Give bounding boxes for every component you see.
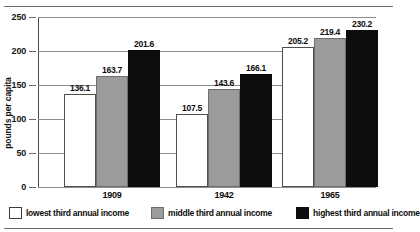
y-axis-tick [29,17,36,18]
legend-item[interactable]: lowest third annual income [9,207,129,219]
bar-value-label: 143.6 [214,78,234,88]
bar-value-label: 205.2 [288,36,308,46]
legend-label: lowest third annual income [26,208,129,218]
bar-value-label: 230.2 [352,19,372,29]
y-axis-tick-label: 50 [16,148,26,158]
legend-item[interactable]: highest third annual income [296,207,420,219]
x-axis-category-label: 1942 [214,190,233,200]
y-axis-tick-label: 200 [12,46,26,56]
y-axis-line [38,17,39,187]
bar[interactable]: 143.6 [208,89,240,187]
bar[interactable]: 230.2 [346,30,378,187]
y-axis-title: pounds per capita [2,58,14,168]
bottom-divider [4,228,393,229]
y-axis-tick-label: 0 [21,182,26,192]
legend-swatch [9,207,22,219]
bar[interactable]: 219.4 [314,38,346,187]
y-axis-tick [29,153,36,154]
bar-group: 205.2219.4230.2 [282,17,378,187]
bar[interactable]: 107.5 [176,114,208,187]
bar-value-label: 107.5 [182,103,202,113]
chart-legend: lowest third annual incomemiddle third a… [0,203,397,223]
bar[interactable]: 205.2 [282,47,314,187]
clipped-caption [14,0,394,2]
gridline [38,187,376,188]
legend-label: highest third annual income [313,208,420,218]
x-axis-category-label: 1965 [320,190,339,200]
bar[interactable]: 136.1 [64,94,96,187]
bar-value-label: 166.1 [246,63,266,73]
legend-swatch [296,207,309,219]
y-axis-tick-label: 150 [12,80,26,90]
bar[interactable]: 201.6 [128,50,160,187]
y-axis-tick [29,85,36,86]
bar[interactable]: 166.1 [240,74,272,187]
legend-label: middle third annual income [168,208,272,218]
bar-group: 136.1163.7201.6 [64,17,160,187]
bar-value-label: 136.1 [70,83,90,93]
y-axis-tick [29,119,36,120]
bar[interactable]: 163.7 [96,76,128,187]
y-axis-tick-label: 250 [12,12,26,22]
bar-chart: pounds per capita 050100150200250136.116… [0,6,397,196]
bar-value-label: 163.7 [102,65,122,75]
bar-value-label: 201.6 [134,39,154,49]
plot-area: 050100150200250136.1163.7201.61909107.51… [38,17,376,187]
x-axis-category-label: 1909 [102,190,121,200]
y-axis-tick-label: 100 [12,114,26,124]
bar-group: 107.5143.6166.1 [176,17,272,187]
bar-value-label: 219.4 [320,27,340,37]
y-axis-tick [29,51,36,52]
legend-swatch [151,207,164,219]
legend-item[interactable]: middle third annual income [151,207,272,219]
y-axis-tick [29,187,36,188]
